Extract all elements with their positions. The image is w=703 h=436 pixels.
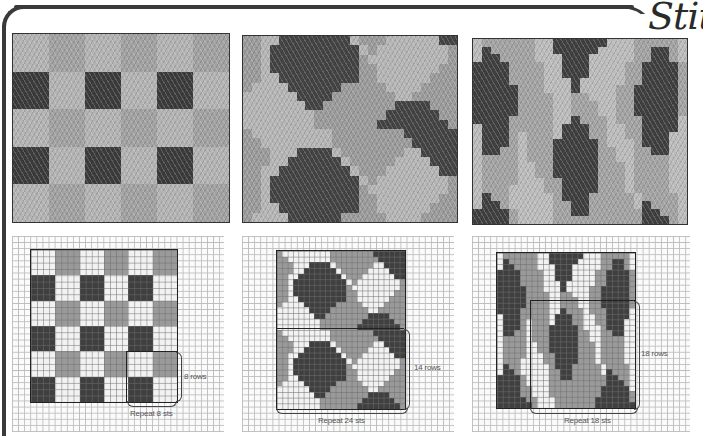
rows-bracket-2 — [404, 329, 410, 410]
sts-bracket-3 — [530, 408, 638, 414]
repeat-box-3 — [530, 300, 636, 408]
repeat-box-1 — [126, 351, 178, 403]
page-frame-left-rule — [2, 25, 6, 436]
page-title: Stitc — [648, 0, 703, 38]
sts-bracket-1 — [127, 401, 177, 407]
page-frame-corner — [2, 5, 32, 35]
rows-bracket-1 — [176, 352, 182, 402]
flame-swatch-photo — [472, 38, 688, 225]
rows-label-3: 18 rows — [641, 349, 668, 358]
page-frame-top-rule — [14, 5, 634, 9]
diamond-swatch-photo — [242, 35, 458, 223]
checkerboard-swatch-photo — [12, 33, 230, 223]
sts-label-1: Repeat 8 sts — [130, 409, 173, 418]
rows-bracket-3 — [634, 301, 640, 410]
sts-label-2: Repeat 24 sts — [318, 416, 365, 425]
rows-label-1: 8 rows — [184, 372, 206, 381]
rows-label-2: 14 rows — [414, 363, 441, 372]
sts-bracket-2 — [276, 408, 408, 414]
sts-label-3: Repeat 18 sts — [564, 416, 611, 425]
repeat-box-2 — [276, 328, 404, 409]
